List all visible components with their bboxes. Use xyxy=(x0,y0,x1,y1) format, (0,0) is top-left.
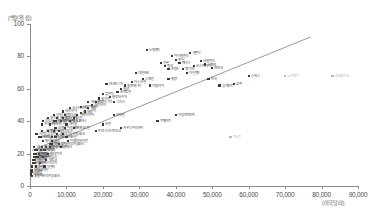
data-point xyxy=(182,68,184,70)
data-point xyxy=(218,84,220,86)
data-point xyxy=(164,65,166,67)
data-point xyxy=(186,72,188,74)
data-point-label: 중앙아프리카공화국 xyxy=(34,173,60,178)
data-point xyxy=(42,120,44,122)
data-point xyxy=(146,49,148,51)
data-point-label: 일본 xyxy=(163,60,169,65)
data-point-label: 파나마 xyxy=(83,110,92,115)
data-point-label: 사우디아라비아 xyxy=(123,125,143,130)
data-point xyxy=(41,123,43,125)
data-point-label: 짐바브웨 xyxy=(36,151,47,156)
data-point xyxy=(135,72,137,74)
data-point-label: 쿠웨이트 xyxy=(160,118,171,123)
data-point-label: 카자흐스탄 xyxy=(76,125,90,130)
data-point-label: 에스토니아 xyxy=(109,81,123,86)
data-point-label: 오스트리아 xyxy=(196,63,210,68)
data-point xyxy=(33,146,35,148)
data-point xyxy=(60,146,62,148)
data-point xyxy=(105,83,107,85)
data-point xyxy=(167,68,169,70)
data-point xyxy=(31,165,33,167)
data-point xyxy=(167,78,169,80)
data-point-label: 바레인 xyxy=(116,112,125,117)
data-point-label: 아르메니아 xyxy=(52,121,66,126)
data-point xyxy=(34,162,36,164)
data-point-label: 우루과이 xyxy=(91,99,102,104)
data-point-label: 앙골라 xyxy=(47,164,56,169)
data-point xyxy=(200,60,202,62)
data-point xyxy=(33,153,35,155)
data-point xyxy=(38,136,40,138)
data-point xyxy=(233,83,235,85)
data-point-label: 룩셈부르크 xyxy=(335,73,349,78)
data-point xyxy=(34,159,36,161)
data-point-label: 대한민국 xyxy=(138,70,149,75)
data-point-label: 카타르 xyxy=(233,134,242,139)
data-point-label: 스위스 xyxy=(251,73,260,78)
data-point-label: 아랍에미리트 xyxy=(178,112,195,117)
data-point-label: 슬로바키아 xyxy=(112,94,126,99)
data-point xyxy=(102,123,104,125)
data-point xyxy=(102,93,104,95)
data-point-label: 핀란드 xyxy=(193,50,202,55)
data-point-label: 그리스 xyxy=(116,99,125,104)
data-point xyxy=(47,117,49,119)
data-point-label: 조지아 xyxy=(50,115,59,120)
data-point xyxy=(35,156,37,158)
data-point xyxy=(248,75,250,77)
data-point-label: 뉴질랜드 xyxy=(149,47,160,52)
data-point xyxy=(49,123,51,125)
data-point xyxy=(211,67,213,69)
data-point xyxy=(35,133,37,135)
data-point-label: 트리니다드토바고 xyxy=(98,128,121,133)
data-point-label: 벨기에 xyxy=(185,66,194,71)
data-point xyxy=(31,175,33,177)
data-point xyxy=(229,136,231,138)
data-point xyxy=(189,52,191,54)
data-point xyxy=(171,55,173,57)
data-point-label: 수단 xyxy=(38,164,44,169)
data-point xyxy=(178,62,180,64)
data-point xyxy=(35,165,37,167)
data-point xyxy=(80,112,82,114)
data-point xyxy=(116,91,118,93)
scatter-chart: (백분위 점) (미국달러) 020406080100 010,00020,00… xyxy=(0,0,371,216)
data-point-label: 홍콩 xyxy=(171,76,177,81)
data-point xyxy=(156,120,158,122)
data-point xyxy=(87,101,89,103)
data-point xyxy=(175,59,177,61)
data-point xyxy=(113,101,115,103)
data-point-label: 노르웨이 xyxy=(287,73,298,78)
data-point xyxy=(95,130,97,132)
data-point xyxy=(58,130,60,132)
data-point xyxy=(42,140,44,142)
data-point-label: 싱가포르 xyxy=(222,83,233,88)
data-point xyxy=(65,136,67,138)
data-point-label: 오만 xyxy=(105,121,111,126)
data-point-label: 알제리 xyxy=(63,144,72,149)
data-point xyxy=(67,140,69,142)
data-point-label: 이탈리아 xyxy=(152,83,163,88)
data-point-label: 아제르바이잔 xyxy=(70,138,87,143)
data-point xyxy=(113,114,115,116)
data-points-layer: 룩셈부르크노르웨이스위스카타르호주덴마크스웨덴네덜란드미국오스트리아핀란드아일랜… xyxy=(0,0,371,216)
data-point xyxy=(284,75,286,77)
data-point-label: 키르기스스탄 xyxy=(39,131,56,136)
data-point xyxy=(175,114,177,116)
data-point xyxy=(73,127,75,129)
data-point-label: 미국 xyxy=(211,76,217,81)
data-point xyxy=(160,62,162,64)
data-point-label: 호주 xyxy=(236,81,242,86)
data-point xyxy=(207,78,209,80)
data-point xyxy=(331,75,333,77)
data-point xyxy=(149,84,151,86)
data-point-label: 아이슬란드 xyxy=(174,53,188,58)
data-point-label: 스페인 xyxy=(145,76,154,81)
